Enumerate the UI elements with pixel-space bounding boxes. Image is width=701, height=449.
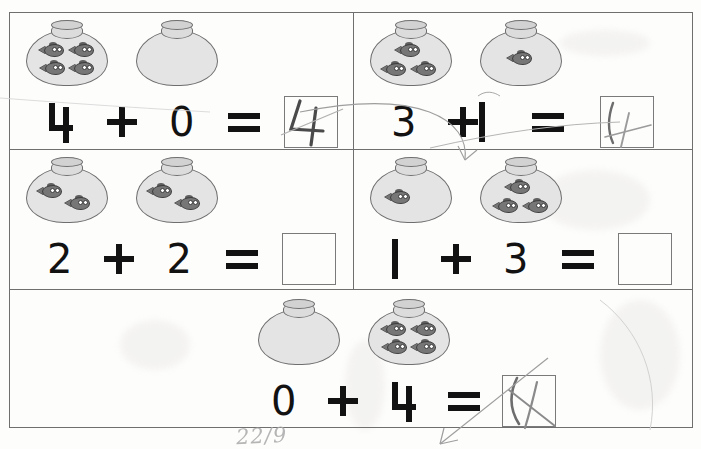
fish-icon: [493, 200, 518, 213]
fish-icon: [69, 62, 94, 75]
bowl-rim: [505, 157, 537, 167]
fishbowl-1-fish: [369, 155, 453, 223]
answer-box-3[interactable]: [282, 233, 336, 285]
fish-icon: [40, 62, 65, 75]
bowl-group-1: [25, 18, 219, 86]
problem-cell-4: 3: [353, 149, 693, 288]
fish-icon: [69, 44, 94, 57]
fishbowl-3-fish: [479, 155, 563, 223]
fish-icon: [147, 185, 172, 198]
addend-left-4: [391, 239, 399, 279]
addend-left-3: 2: [47, 239, 72, 279]
fish-icon: [395, 44, 420, 57]
equals-operator-3: [226, 249, 258, 269]
equals-operator-4: [562, 249, 594, 269]
fish-icon: [411, 63, 436, 76]
addend-right-2: [478, 102, 486, 142]
handwritten-four-1: [279, 91, 345, 155]
fish-icon: [385, 191, 410, 204]
problem-cell-3: 2 2: [9, 149, 352, 288]
equals-operator-1: [228, 112, 260, 132]
bowl-rim: [395, 157, 427, 167]
plus-operator-4: [441, 244, 471, 274]
fish-icon: [523, 200, 548, 213]
addend-right-5: [390, 380, 418, 422]
fishbowl-3-fish: [369, 18, 453, 86]
bowl-rim: [51, 20, 83, 30]
handwritten-four-2: [595, 91, 661, 155]
equals-operator-2: [532, 112, 564, 132]
answer-box-2[interactable]: 4: [600, 96, 654, 148]
bowl-rim: [395, 20, 427, 30]
bowl-rim: [51, 157, 83, 167]
addend-left-1: [47, 101, 75, 143]
answer-box-4[interactable]: [618, 233, 672, 285]
fish-icon: [381, 323, 406, 336]
addend-right-1: 0: [169, 102, 194, 142]
fishbowl-4-fish: [367, 297, 451, 365]
worksheet-page: 0 4: [0, 0, 701, 449]
fish-icon: [411, 341, 436, 354]
plus-operator-3: [104, 244, 134, 274]
fishbowl-empty: [257, 297, 341, 365]
answer-box-5[interactable]: 4: [502, 375, 556, 427]
equation-4: 3: [391, 233, 672, 285]
equation-2: 3 4: [391, 96, 654, 148]
addend-right-4: 3: [503, 239, 528, 279]
problem-cell-5: 0 4: [9, 289, 693, 428]
handwritten-date: 22/9: [235, 423, 287, 449]
bowl-rim: [161, 20, 193, 30]
equals-operator-5: [448, 391, 480, 411]
fish-icon: [507, 52, 532, 65]
bowl-rim: [505, 20, 537, 30]
addend-left-5: 0: [271, 381, 296, 421]
fishbowl-2-fish: [25, 155, 109, 223]
fish-icon: [505, 181, 530, 194]
fishbowl-2-fish: [135, 155, 219, 223]
fishbowl-empty: [135, 18, 219, 86]
bowl-group-4: [369, 155, 563, 223]
equation-3: 2 2: [47, 233, 336, 285]
fish-icon: [39, 44, 64, 57]
bowl-rim: [161, 157, 193, 167]
equation-1: 0 4: [47, 96, 338, 148]
problem-cell-1: 0 4: [9, 12, 352, 149]
fish-icon: [382, 341, 407, 354]
fishbowl-4-fish: [25, 18, 109, 86]
plus-operator-1: [107, 107, 137, 137]
fishbowl-1-fish: [479, 18, 563, 86]
addend-right-3: 2: [166, 239, 191, 279]
equation-5: 0 4: [271, 375, 556, 427]
fish-icon: [65, 197, 90, 210]
bowl-rim: [393, 299, 425, 309]
bowl-group-5: [257, 297, 451, 365]
fish-icon: [381, 63, 406, 76]
bowl-rim: [283, 299, 315, 309]
answer-box-1[interactable]: 4: [284, 96, 338, 148]
bowl-group-3: [25, 155, 219, 223]
problem-cell-2: 3 4: [353, 12, 693, 149]
addend-left-2: 3: [391, 102, 416, 142]
bowl-group-2: [369, 18, 563, 86]
plus-operator-2: [448, 107, 478, 137]
plus-operator-5: [328, 386, 358, 416]
handwritten-four-5: [497, 370, 567, 436]
fish-icon: [411, 323, 436, 336]
fish-icon: [37, 185, 62, 198]
fish-icon: [175, 197, 200, 210]
pencil-arrowhead: [440, 428, 458, 444]
